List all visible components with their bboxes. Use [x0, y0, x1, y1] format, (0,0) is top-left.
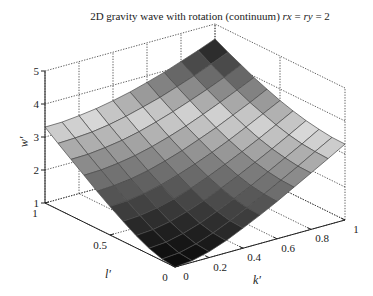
- z-axis-label: w′: [17, 136, 31, 147]
- y-tick-mark: [45, 202, 49, 203]
- y-tick-mark: [110, 234, 114, 235]
- x-tick-label: 0.4: [247, 251, 261, 263]
- title-eq: =: [292, 10, 304, 22]
- y-tick-label: 0: [162, 271, 168, 283]
- x-tick-label: 0: [183, 270, 189, 282]
- x-tick-label: 0.2: [213, 261, 227, 273]
- y-tick-label: 0.5: [93, 239, 107, 251]
- surface-chart: 2D gravity wave with rotation (continuum…: [0, 0, 373, 296]
- title-text: 2D gravity wave with rotation (continuum…: [90, 10, 282, 23]
- z-tick-label: 5: [34, 65, 40, 77]
- y-tick-label: 1: [32, 207, 38, 219]
- x-tick-label: 1: [353, 223, 359, 235]
- x-tick-mark: [273, 237, 277, 239]
- x-tick-label: 0.8: [315, 232, 329, 244]
- y-axis-label: l′: [105, 267, 111, 281]
- x-tick-mark: [205, 256, 209, 258]
- chart-title: 2D gravity wave with rotation (continuum…: [90, 10, 330, 23]
- x-tick-mark: [239, 246, 243, 248]
- x-tick-mark: [341, 218, 345, 220]
- title-rx: rx: [283, 10, 292, 22]
- title-value: = 2: [313, 10, 330, 22]
- x-tick-mark: [307, 228, 311, 230]
- z-tick-label: 4: [34, 98, 40, 110]
- z-tick-label: 3: [34, 131, 40, 143]
- title-ry: ry: [303, 10, 312, 22]
- x-axis-label: k′: [253, 273, 261, 287]
- x-tick-label: 0.6: [281, 242, 295, 254]
- z-tick-label: 2: [34, 164, 40, 176]
